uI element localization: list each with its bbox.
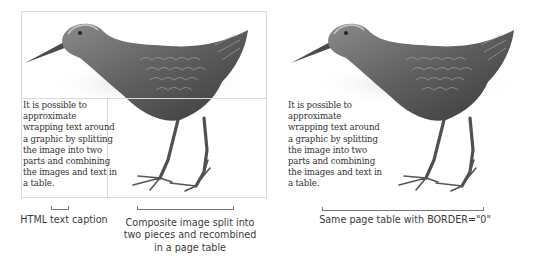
paragraph-line: the image into two bbox=[288, 145, 382, 156]
paragraph-line: It is possible to bbox=[288, 100, 382, 111]
caption-line: in a page table bbox=[120, 242, 260, 254]
paragraph-line: the image into two bbox=[23, 145, 117, 156]
paragraph-line: a graphic by splitting bbox=[23, 134, 117, 145]
paragraph-line: approximate bbox=[288, 111, 382, 122]
paragraph-line: wrapping text around bbox=[288, 122, 382, 133]
wrapped-paragraph: It is possible to approximate wrapping t… bbox=[288, 100, 382, 190]
paragraph-line: approximate bbox=[23, 111, 117, 122]
wrapped-paragraph: It is possible to approximate wrapping t… bbox=[23, 100, 117, 190]
border-zero-caption: Same page table with BORDER="0" bbox=[300, 214, 510, 226]
paragraph-line: wrapping text around bbox=[23, 122, 117, 133]
paragraph-line: a table. bbox=[288, 178, 382, 189]
composite-image-caption: Composite image split into two pieces an… bbox=[120, 217, 260, 254]
paragraph-line: the images and text in bbox=[288, 167, 382, 178]
paragraph-line: a table. bbox=[23, 178, 117, 189]
composite-image-bracket bbox=[137, 206, 234, 210]
paragraph-line: a graphic by splitting bbox=[288, 134, 382, 145]
caption-line: two pieces and recombined bbox=[120, 229, 260, 241]
paragraph-line: parts and combining bbox=[23, 156, 117, 167]
table-row-divider bbox=[21, 98, 267, 99]
caption-line: Composite image split into bbox=[120, 217, 260, 229]
paragraph-line: It is possible to bbox=[23, 100, 117, 111]
html-text-caption: HTML text caption bbox=[14, 214, 114, 226]
paragraph-line: parts and combining bbox=[288, 156, 382, 167]
borderless-table-bracket bbox=[322, 207, 484, 211]
text-caption-bracket bbox=[51, 206, 69, 210]
paragraph-line: the images and text in bbox=[23, 167, 117, 178]
